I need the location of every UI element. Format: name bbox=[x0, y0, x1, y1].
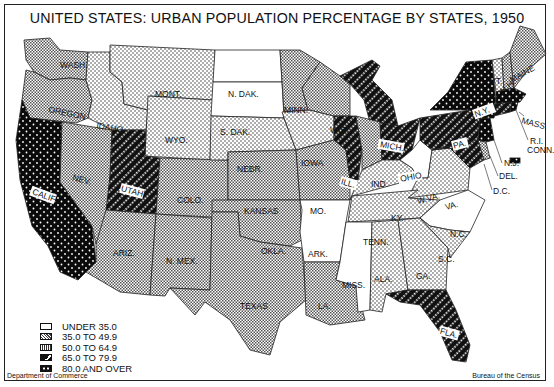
legend-label: 65.0 TO 79.9 bbox=[62, 352, 117, 363]
label-nj: N.J. bbox=[504, 158, 519, 168]
state-nmex bbox=[150, 214, 212, 296]
label-sc: S.C. bbox=[438, 254, 455, 264]
footer-source-left: Department of Commerce bbox=[7, 372, 88, 379]
label-tenn: TENN. bbox=[363, 237, 389, 247]
label-nc: N.C. bbox=[450, 229, 467, 239]
label-ala: ALA. bbox=[374, 274, 392, 284]
state-nj bbox=[478, 118, 494, 142]
label-ind: IND. bbox=[371, 179, 388, 189]
swatch-black-diagonal bbox=[40, 354, 52, 361]
footer-source-right: Bureau of the Census bbox=[472, 372, 540, 379]
label-conn: CONN. bbox=[527, 145, 554, 155]
label-kansas: KANSAS bbox=[244, 206, 279, 216]
legend-label: 50.0 TO 64.9 bbox=[62, 342, 117, 353]
state-conn bbox=[494, 102, 512, 116]
swatch-light-dots bbox=[40, 333, 52, 340]
state-mo bbox=[296, 140, 350, 200]
label-miss: MISS. bbox=[342, 280, 365, 290]
label-mass: MASS. bbox=[520, 115, 548, 132]
state-kansas bbox=[228, 150, 300, 200]
label-mont: MONT. bbox=[155, 89, 181, 99]
legend-item: 35.0 TO 49.9 bbox=[40, 332, 132, 343]
legend: UNDER 35.0 35.0 TO 49.9 50.0 TO 64.9 65.… bbox=[40, 321, 132, 374]
state-fla bbox=[386, 290, 470, 362]
label-dc: D.C. bbox=[493, 186, 510, 196]
swatch-black-dots bbox=[40, 365, 52, 372]
label-ndak: N. DAK. bbox=[228, 89, 259, 99]
label-colo: COLO. bbox=[177, 195, 203, 205]
label-iowa: IOWA bbox=[301, 158, 324, 168]
state-sdak bbox=[211, 82, 284, 118]
state-wyo bbox=[145, 96, 213, 160]
swatch-white bbox=[40, 323, 52, 330]
state-ndak bbox=[213, 50, 282, 82]
legend-label: 35.0 TO 49.9 bbox=[62, 331, 117, 342]
label-minn: MINN. bbox=[284, 105, 308, 115]
label-del: DEL. bbox=[499, 171, 518, 181]
label-texas: TEXAS bbox=[240, 301, 268, 311]
legend-item: 65.0 TO 79.9 bbox=[40, 353, 132, 364]
label-okla: OKLA. bbox=[261, 246, 286, 256]
label-wash: WASH. bbox=[60, 60, 88, 70]
label-nebr: NEBR. bbox=[237, 164, 263, 174]
label-nmex: N. MEX. bbox=[166, 256, 198, 266]
label-ark: ARK. bbox=[308, 249, 328, 259]
label-mo: MO. bbox=[310, 206, 326, 216]
legend-item: UNDER 35.0 bbox=[40, 321, 132, 332]
legend-item: 50.0 TO 64.9 bbox=[40, 342, 132, 353]
swatch-crosshatch bbox=[40, 344, 52, 351]
label-sdak: S. DAK. bbox=[220, 127, 250, 137]
label-ga: GA. bbox=[416, 271, 431, 281]
label-ariz: ARIZ. bbox=[113, 248, 135, 258]
legend-label: UNDER 35.0 bbox=[62, 321, 117, 332]
label-wis: WIS. bbox=[330, 125, 348, 135]
label-la: LA. bbox=[318, 301, 331, 311]
label-wyo: WYO. bbox=[165, 135, 188, 145]
label-ky: KY. bbox=[391, 213, 404, 223]
